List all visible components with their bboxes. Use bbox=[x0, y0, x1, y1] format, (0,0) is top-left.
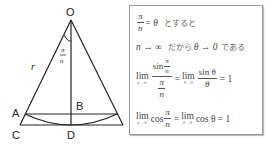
label-c: C bbox=[12, 129, 20, 141]
formula-box: πn = θ とすると n → ∞ だから θ → 0 である limn→∞ s… bbox=[129, 5, 263, 135]
side-oc bbox=[20, 20, 71, 125]
formula-line-3: limn→∞ sin πn πn = limθ→0 sin θθ = 1 bbox=[136, 58, 234, 99]
formula-line-2: n → ∞ だから θ → 0 である bbox=[136, 41, 245, 52]
formula-line-1: πn = θ とすると bbox=[136, 12, 196, 33]
label-d: D bbox=[67, 129, 75, 141]
angle-den: n bbox=[60, 57, 64, 65]
label-o: O bbox=[66, 6, 75, 18]
angle-arc bbox=[64, 35, 71, 41]
label-a: A bbox=[12, 107, 20, 119]
angle-num: π bbox=[61, 46, 65, 54]
label-b: B bbox=[76, 100, 83, 112]
label-r: r bbox=[31, 61, 35, 72]
formula-line-4: limn→∞ cos πn = limθ→0 cos θ = 1 bbox=[136, 108, 230, 129]
